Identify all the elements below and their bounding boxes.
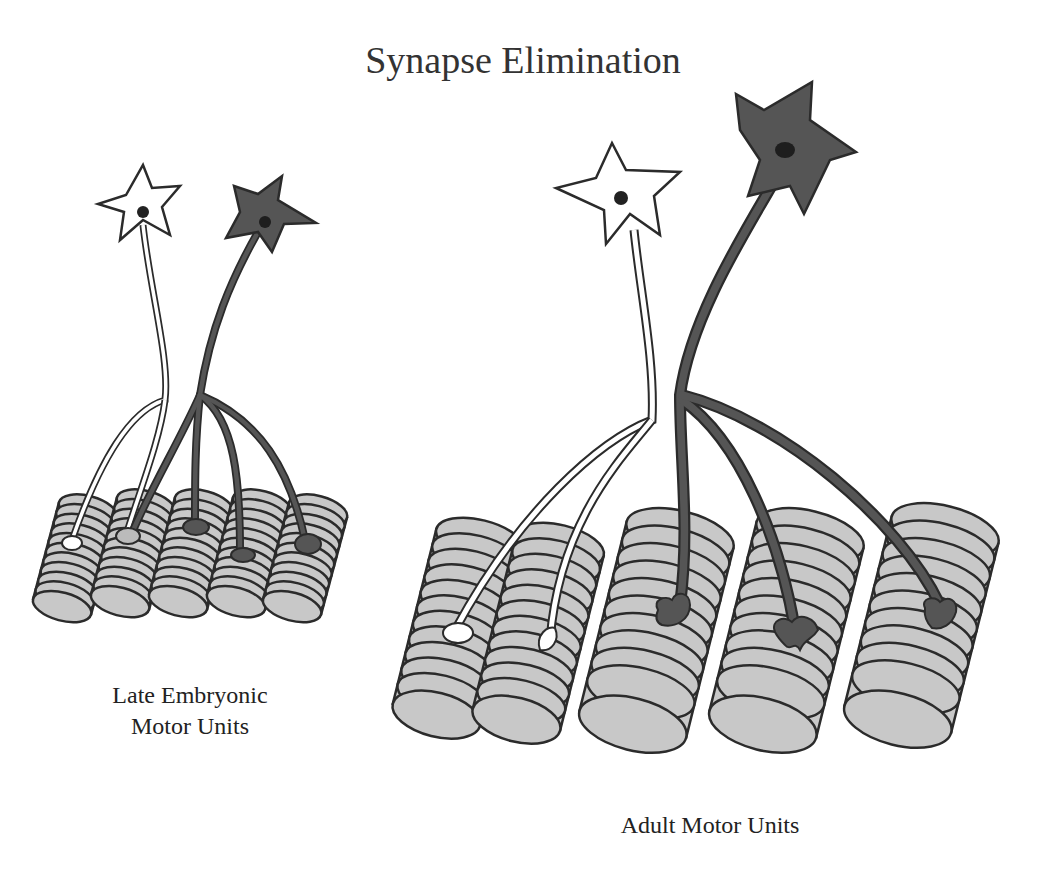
late-embryonic-label-line1: Late Embryonic (60, 680, 320, 711)
embryonic-muscle-fibers (30, 484, 351, 628)
embryonic-dark-neuron-soma (226, 176, 316, 252)
adult-dark-neuron-soma (736, 82, 856, 214)
adult-muscle-fibers (387, 493, 1004, 762)
adult-white-neuron-soma (556, 143, 680, 244)
late-embryonic-label: Late Embryonic Motor Units (60, 680, 320, 742)
adult-label: Adult Motor Units (540, 810, 880, 841)
synapse-elimination-diagram (0, 0, 1046, 875)
late-embryonic-label-line2: Motor Units (60, 711, 320, 742)
embryonic-white-neuron-soma (98, 165, 180, 240)
